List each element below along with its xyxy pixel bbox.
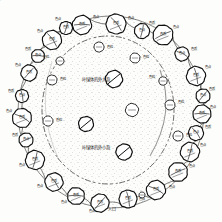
cell-21-label: 色质 (26, 71, 32, 74)
cell-07-label: 色点 (200, 94, 206, 97)
cell-03-tag: 色质 (149, 22, 155, 25)
cell-16-tag: 色点 (37, 185, 43, 188)
granule-right-low (165, 100, 175, 110)
cell-05-label: 色点 (179, 52, 185, 55)
cell-20-tag: 色质 (8, 90, 14, 93)
cell-15-tag: 色点 (61, 201, 67, 204)
cell-01-tag: 色点 (93, 16, 99, 19)
granule-lower-right (173, 131, 183, 141)
granule-inner-left (56, 57, 64, 65)
cell-06-tag: 色点 (205, 66, 211, 69)
granule-upper-right (130, 53, 140, 63)
cell-11-label: 色质 (175, 170, 181, 173)
cell-04-label: 色质 (160, 33, 166, 36)
cell-24-label: 色质 (63, 26, 69, 29)
cell-10-label: 色质 (187, 150, 193, 153)
scanned-biology-diagram: 色质色点色质色点色点色质色质色点色点色质色质色点色点色质色质色点色点色质色质色点… (0, 0, 222, 222)
ring-cells-layer (0, 0, 222, 222)
cell-18-tag: 色质 (12, 134, 18, 137)
cell-04-tag: 色点 (173, 26, 179, 29)
cell-17-label: 色质 (32, 158, 38, 161)
granule-center-ring (79, 116, 94, 131)
center-caption-2: 叶绿体的外小泡 (82, 146, 110, 150)
cell-14-label: 色质 (97, 201, 103, 204)
cell-23-tag: 色点 (37, 30, 43, 33)
cell-21-tag: 色点 (15, 64, 21, 67)
cell-07-tag: 色质 (209, 88, 215, 91)
granule-left-mid (47, 75, 57, 85)
granule-upper-right-label: 色粒 (143, 56, 149, 59)
granule-lower-right-label: 色粒 (186, 134, 192, 137)
cell-03-label: 色点 (139, 29, 145, 32)
cell-19-label: 色质 (19, 116, 25, 119)
cell-02-label: 色质 (113, 22, 119, 25)
cell-12-tag: 色点 (169, 186, 175, 189)
cell-02-tag: 色点 (128, 17, 134, 20)
cell-13-label: 色质 (125, 197, 131, 200)
cell-17-tag: 色点 (19, 164, 25, 167)
cell-09-label: 色点 (193, 131, 199, 134)
bottom-caption: 入口 (108, 208, 116, 212)
cell-23-label: 色质 (49, 38, 55, 41)
cell-18-label: 色点 (23, 138, 29, 141)
granule-left-low (43, 116, 53, 126)
cell-19-tag: 色点 (6, 110, 12, 113)
cell-20-label: 色点 (19, 94, 25, 97)
cell-01-label: 色质 (79, 23, 85, 26)
granule-inner-rt (159, 77, 167, 85)
cell-22-label: 色点 (35, 54, 41, 57)
cell-16-label: 色质 (51, 180, 57, 183)
granule-upper-small (94, 42, 104, 52)
cell-24-tag: 色点 (55, 18, 61, 21)
granule-left-low-label: 色粒 (56, 119, 62, 122)
granule-inner-rt-label: 色粒 (149, 76, 155, 79)
cell-12-label: 色质 (153, 188, 159, 191)
cell-11-tag: 色点 (189, 165, 195, 168)
granule-right-low-label: 色粒 (178, 101, 184, 104)
granule-upper-small-label: 色粒 (107, 46, 113, 49)
granule-bottom-center (116, 144, 133, 160)
cell-15-label: 色质 (73, 194, 79, 197)
cell-05-tag: 色质 (191, 48, 197, 51)
center-caption-1: 叶绿体的外大泡 (82, 78, 110, 82)
cell-13-tag: 色点 (139, 198, 145, 201)
cell-09-tag: 色质 (205, 126, 211, 129)
granule-right-mid-label: 色粒 (0, 0, 3, 2)
cell-08-label: 色质 (199, 112, 205, 115)
cell-10-tag: 色点 (200, 144, 206, 147)
cell-22-tag: 色质 (25, 48, 31, 51)
granule-left-mid-label: 色粒 (60, 78, 66, 81)
cell-06-label: 色质 (193, 74, 199, 77)
cell-14-tag: 色点 (89, 210, 95, 213)
granule-inner-left-label: 色粒 (43, 56, 49, 59)
cell-08-tag: 色点 (210, 106, 216, 109)
granule-right-mid (125, 103, 138, 117)
